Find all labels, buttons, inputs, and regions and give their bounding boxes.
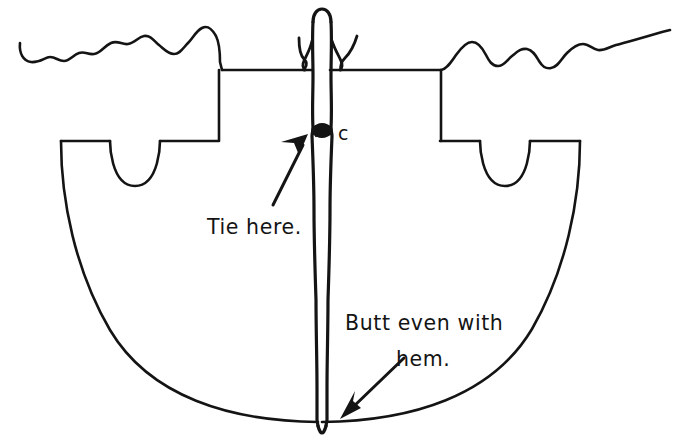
butt-even-label-line2: hem. [396, 347, 451, 371]
diagram-canvas: c Tie here. Butt even with hem. [0, 0, 678, 436]
top-edge-right-wavy-line [441, 30, 670, 70]
right-armhole-notch-arc [480, 141, 530, 186]
top-edge-left-wavy-line [20, 27, 222, 70]
hem-arc-right [322, 141, 580, 422]
butt-even-arrow-head [340, 391, 361, 419]
tie-here-arrow-shaft [273, 145, 303, 205]
tie-here-label: Tie here. [206, 215, 302, 239]
diagram-svg: c Tie here. Butt even with hem. [0, 0, 678, 436]
cord-left-side [312, 22, 318, 426]
left-armhole-notch-arc [110, 141, 160, 186]
tie-knot-mark [311, 123, 333, 138]
cord-bottom-tip [318, 426, 326, 433]
cord-right-side [326, 22, 332, 426]
point-label-c: c [338, 122, 349, 144]
cord-left-side-upper [313, 9, 331, 22]
tie-knot-highlight [316, 126, 317, 136]
butt-even-label-line1: Butt even with [345, 311, 503, 335]
hem-arc-left [61, 141, 318, 422]
